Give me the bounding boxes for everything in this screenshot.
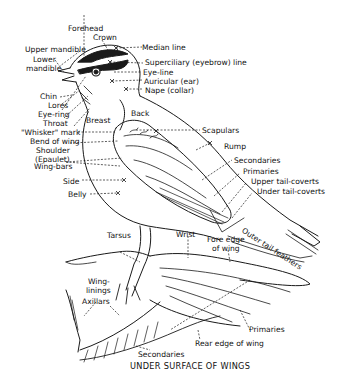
label-side: Side [63, 177, 79, 186]
label-wing-linings-1: Wing- [88, 277, 110, 286]
label-under-tail-coverts: Under tail-coverts [257, 187, 325, 196]
label-nape: Nape (collar) [145, 86, 194, 95]
back-outline [140, 96, 318, 236]
label-whisker: "Whisker" mark [21, 128, 80, 137]
label-secondaries-under: Secondaries [138, 350, 184, 359]
label-breast: Breast [86, 116, 110, 125]
label-primaries-upper: Primaries [243, 167, 279, 176]
label-wing-linings-2: linings [86, 286, 111, 295]
label-primaries-under: Primaries [249, 325, 285, 334]
label-rear-edge: Rear edge of wing [195, 339, 264, 348]
label-bend-of-wing: Bend of wing [30, 137, 80, 146]
label-upper-mandible: Upper mandible [25, 45, 86, 54]
label-eye-line: Eye-line [143, 68, 173, 77]
label-fore-edge-2: of wing [212, 244, 240, 253]
label-rump: Rump [224, 142, 246, 151]
wing-outline [113, 120, 231, 223]
label-lores: Lores [48, 101, 68, 110]
label-fore-edge-1: Fore edge [207, 235, 245, 244]
label-tarsus: Tarsus [107, 231, 131, 240]
label-lower-mandible-2: mandible [26, 64, 61, 73]
label-median-line: Median line [142, 43, 186, 52]
label-scapulars: Scapulars [202, 126, 239, 135]
label-lower-mandible-1: Lower [33, 55, 56, 64]
label-auricular: Auricular (ear) [144, 77, 199, 86]
label-throat: Throat [43, 119, 68, 128]
label-superciliary: Superciliary (eyebrow) line [145, 58, 247, 67]
label-wrist: Wrist [176, 230, 195, 239]
label-axillars: Axillars [82, 297, 110, 306]
breast-outline [83, 112, 220, 240]
label-secondaries-upper: Secondaries [234, 156, 280, 165]
label-shoulder-1: Shoulder [36, 146, 70, 155]
label-chin: Chin [40, 92, 57, 101]
lower-mandible [62, 76, 76, 82]
label-belly: Belly [68, 190, 87, 199]
label-eye-ring: Eye-ring [38, 110, 70, 119]
label-wing-bars: Wing-bars [34, 162, 72, 171]
caption: UNDER SURFACE OF WINGS [130, 362, 250, 371]
label-crown: Crown [93, 33, 117, 42]
label-upper-tail-coverts: Upper tail-coverts [251, 177, 319, 186]
label-forehead: Forehead [68, 24, 103, 33]
label-back: Back [131, 109, 149, 118]
